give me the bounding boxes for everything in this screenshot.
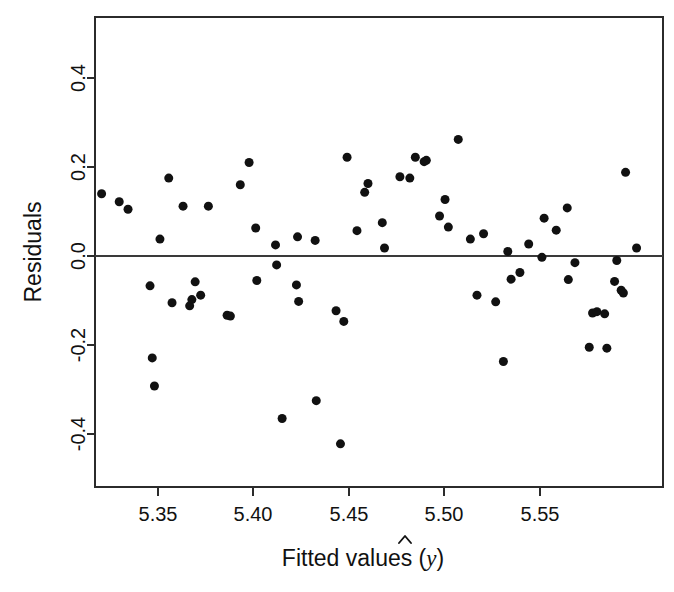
scatter-point (97, 189, 106, 198)
y-hat-symbol: y (424, 546, 437, 571)
scatter-point (602, 344, 611, 353)
scatter-point (552, 226, 561, 235)
x-axis-title-suffix: ) (437, 545, 445, 571)
scatter-point (632, 243, 641, 252)
scatter-point (293, 232, 302, 241)
scatter-point (179, 202, 188, 211)
scatter-point (360, 188, 369, 197)
scatter-point (515, 268, 524, 277)
x-tick-label-5.45: 5.45 (330, 503, 369, 525)
y-axis-title: Residuals (20, 202, 46, 303)
scatter-point (196, 291, 205, 300)
scatter-point (600, 309, 609, 318)
scatter-point (619, 288, 628, 297)
x-tick-label-5.55: 5.55 (521, 503, 560, 525)
scatter-point (592, 307, 601, 316)
scatter-point (612, 256, 621, 265)
scatter-point (454, 135, 463, 144)
scatter-point (479, 229, 488, 238)
scatter-point (422, 156, 431, 165)
scatter-point (236, 180, 245, 189)
scatter-point (278, 414, 287, 423)
scatter-point (294, 297, 303, 306)
scatter-point (124, 205, 133, 214)
scatter-point (150, 381, 159, 390)
y-tick-label--0.2: -0.2 (67, 328, 89, 362)
scatter-point (405, 174, 414, 183)
scatter-point (380, 243, 389, 252)
scatter-point (363, 179, 372, 188)
scatter-point (204, 202, 213, 211)
svg-text:Fitted values (y): Fitted values (y) (282, 545, 444, 571)
x-axis-tick-labels: 5.35 5.40 5.45 5.50 5.55 (139, 503, 560, 525)
scatter-point (115, 197, 124, 206)
scatter-point (570, 258, 579, 267)
scatter-point (271, 240, 280, 249)
scatter-point (507, 275, 516, 284)
y-axis-tick-labels: 0.4 0.2 0.0 -0.2 -0.4 (67, 64, 89, 451)
scatter-point (444, 223, 453, 232)
scatter-point (164, 174, 173, 183)
scatter-point (466, 235, 475, 244)
circumflex-accent-icon (399, 536, 411, 543)
scatter-point (292, 280, 301, 289)
x-axis-ticks (158, 487, 540, 496)
scatter-point (155, 235, 164, 244)
scatter-point (491, 297, 500, 306)
scatter-point (343, 153, 352, 162)
scatter-point (336, 439, 345, 448)
scatter-point (537, 253, 546, 262)
scatter-point (272, 260, 281, 269)
scatter-point (187, 295, 196, 304)
scatter-point (312, 396, 321, 405)
y-tick-label-0.0: 0.0 (67, 242, 89, 270)
x-tick-label-5.40: 5.40 (234, 503, 273, 525)
scatter-point (378, 218, 387, 227)
scatter-point (311, 236, 320, 245)
scatter-point (435, 211, 444, 220)
scatter-point (411, 153, 420, 162)
scatter-point (395, 172, 404, 181)
scatter-point (226, 312, 235, 321)
y-tick-label--0.4: -0.4 (67, 417, 89, 451)
scatter-point (352, 226, 361, 235)
y-tick-label-0.4: 0.4 (67, 64, 89, 92)
scatter-point (168, 298, 177, 307)
scatter-point (191, 277, 200, 286)
scatter-point (245, 158, 254, 167)
scatter-point (146, 281, 155, 290)
scatter-point (472, 291, 481, 300)
scatter-point (503, 247, 512, 256)
scatter-point (540, 214, 549, 223)
x-axis-title-prefix: Fitted values ( (282, 545, 427, 571)
x-axis-title: Fitted values (y) (282, 536, 444, 571)
scatter-point (563, 203, 572, 212)
scatter-point (441, 195, 450, 204)
plot-panel-border (95, 17, 663, 487)
scatter-point (610, 277, 619, 286)
residuals-vs-fitted-scatter-plot: 0.4 0.2 0.0 -0.2 -0.4 Residuals 5.35 5.4… (0, 0, 674, 592)
scatter-points-layer (97, 135, 641, 448)
x-tick-label-5.35: 5.35 (139, 503, 178, 525)
scatter-point (148, 353, 157, 362)
scatter-point (332, 306, 341, 315)
scatter-point (621, 168, 630, 177)
scatter-point (499, 357, 508, 366)
scatter-point (251, 223, 260, 232)
scatter-point (339, 317, 348, 326)
x-tick-label-5.50: 5.50 (425, 503, 464, 525)
scatter-point (252, 276, 261, 285)
scatter-point (524, 239, 533, 248)
figure-container: 0.4 0.2 0.0 -0.2 -0.4 Residuals 5.35 5.4… (0, 0, 674, 592)
scatter-point (564, 275, 573, 284)
y-tick-label-0.2: 0.2 (67, 153, 89, 181)
scatter-point (585, 343, 594, 352)
